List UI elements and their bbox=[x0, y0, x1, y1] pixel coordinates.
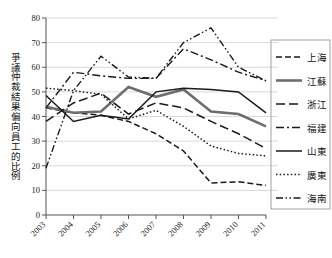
series-line bbox=[46, 88, 266, 156]
x-tick-label: 2004 bbox=[56, 219, 76, 239]
y-tick-label: 0 bbox=[36, 210, 40, 220]
legend-label: 海南 bbox=[307, 193, 327, 204]
x-tick-marks bbox=[46, 215, 266, 219]
y-tick-label: 40 bbox=[32, 112, 41, 122]
x-tick-labels: 200320042005200620072008200920102011 bbox=[28, 219, 267, 239]
legend-label: 山東 bbox=[307, 146, 327, 157]
x-tick-label: 2009 bbox=[193, 219, 212, 238]
x-tick-label: 2011 bbox=[249, 219, 268, 238]
y-tick-label: 60 bbox=[32, 62, 41, 72]
y-tick-labels: 01020304050607080 bbox=[32, 13, 41, 220]
x-tick-label: 2005 bbox=[83, 219, 102, 238]
y-axis-title-char: 例 bbox=[11, 170, 21, 181]
x-tick-label: 2003 bbox=[28, 219, 47, 238]
x-tick-label: 2006 bbox=[111, 219, 130, 238]
y-tick-label: 20 bbox=[32, 161, 41, 171]
legend: 上海江蘇浙江福建山東廣東海南 bbox=[271, 40, 330, 209]
legend-label: 福建 bbox=[307, 123, 327, 134]
series-line bbox=[46, 49, 266, 108]
legend-label: 江蘇 bbox=[307, 76, 327, 87]
legend-label: 上海 bbox=[307, 52, 327, 63]
y-tick-marks bbox=[42, 18, 46, 215]
y-tick-label: 50 bbox=[32, 87, 41, 97]
y-tick-label: 70 bbox=[32, 38, 41, 48]
y-axis-title: 爭議仲裁結果偏向員工的比例 bbox=[11, 52, 21, 182]
y-tick-label: 10 bbox=[32, 185, 41, 195]
y-tick-label: 80 bbox=[32, 13, 41, 23]
chart-svg: 01020304050607080 2003200420052006200720… bbox=[0, 0, 332, 258]
series-lines bbox=[46, 28, 266, 186]
x-tick-label: 2007 bbox=[138, 219, 157, 238]
x-tick-label: 2010 bbox=[221, 219, 240, 238]
legend-label: 浙江 bbox=[307, 99, 327, 110]
y-tick-label: 30 bbox=[32, 136, 41, 146]
line-chart: 01020304050607080 2003200420052006200720… bbox=[0, 0, 332, 258]
legend-label: 廣東 bbox=[307, 170, 327, 181]
x-tick-label: 2008 bbox=[166, 219, 185, 238]
